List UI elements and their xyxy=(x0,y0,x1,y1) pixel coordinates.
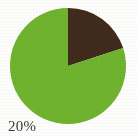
pie-slice-value-label: 20% xyxy=(8,118,36,134)
pie-chart-figure: 20% xyxy=(0,0,137,136)
pie-slice-group xyxy=(10,8,126,124)
pie-chart-svg xyxy=(0,0,137,136)
